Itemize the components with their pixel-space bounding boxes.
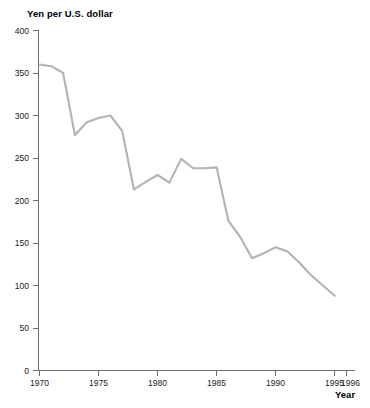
x-axis-title: Year xyxy=(335,389,355,400)
x-tick-label: 1985 xyxy=(207,378,226,388)
y-tick-label: 300 xyxy=(15,111,29,121)
y-axis-tick-labels: 0 50 100 150 200 250 300 350 400 xyxy=(15,26,29,376)
y-axis-ticks xyxy=(33,31,39,371)
y-tick-label: 350 xyxy=(15,68,29,78)
x-tick-label: 1996 xyxy=(341,378,360,388)
y-tick-label: 100 xyxy=(15,281,29,291)
x-axis-ticks xyxy=(40,371,347,377)
y-tick-label: 200 xyxy=(15,196,29,206)
x-axis-tick-labels: 1970 1975 1980 1985 1990 1995 1996 xyxy=(30,378,360,388)
line-chart-plot: 0 50 100 150 200 250 300 350 400 1970 19… xyxy=(0,0,370,408)
x-tick-label: 1975 xyxy=(89,378,108,388)
y-tick-label: 250 xyxy=(15,153,29,163)
y-tick-label: 400 xyxy=(15,26,29,36)
y-tick-label: 150 xyxy=(15,238,29,248)
y-tick-label: 50 xyxy=(20,323,30,333)
data-series-line xyxy=(40,65,335,296)
y-tick-label: 0 xyxy=(24,366,29,376)
x-tick-label: 1970 xyxy=(30,378,49,388)
x-tick-label: 1980 xyxy=(148,378,167,388)
x-tick-label: 1990 xyxy=(266,378,285,388)
chart-container: Yen per U.S. dollar 0 50 100 150 200 250… xyxy=(0,0,370,408)
